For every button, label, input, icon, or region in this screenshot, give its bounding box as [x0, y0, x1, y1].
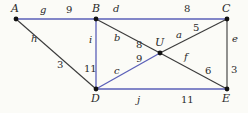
- node-label-D: D: [90, 92, 100, 105]
- node-label-B: B: [91, 2, 100, 15]
- edge-weight-label-a: 5: [193, 22, 199, 33]
- edge-weight-label-d: 8: [184, 3, 190, 14]
- edge-b: [96, 19, 160, 53]
- edge-name-label-c: c: [114, 65, 120, 76]
- edge-weight-label-g: 9: [66, 4, 72, 15]
- edge-weight-label-c: 9: [136, 53, 142, 64]
- node-E: [225, 87, 230, 92]
- edge-name-label-e: e: [232, 33, 238, 44]
- edge-weight-label-i: 11: [84, 63, 97, 74]
- edge-weight-label-f: 6: [205, 65, 211, 76]
- edge-name-label-a: a: [176, 29, 182, 40]
- node-label-C: C: [222, 2, 231, 15]
- node-label-U: U: [155, 36, 165, 49]
- edge-c: [96, 53, 160, 89]
- edge-name-label-f: f: [183, 51, 190, 62]
- node-label-E: E: [221, 92, 230, 105]
- edge-weight-label-j: 11: [181, 94, 194, 105]
- edge-name-label-g: g: [40, 4, 46, 15]
- edge-name-label-d: d: [113, 3, 119, 14]
- node-A: [14, 17, 19, 22]
- edge-name-label-i: i: [89, 34, 92, 45]
- node-label-A: A: [10, 2, 19, 15]
- edge-name-label-h: h: [31, 33, 37, 44]
- edge-weight-label-e: 3: [231, 64, 237, 75]
- edge-f: [160, 53, 227, 89]
- node-B: [94, 17, 99, 22]
- edge-name-label-j: j: [135, 94, 140, 105]
- node-U: [158, 51, 163, 56]
- labels-layer: g9d8i11h3b8a5c9f6e3j11: [31, 3, 238, 105]
- edge-weight-label-b: 8: [136, 39, 142, 50]
- graph-diagram: g9d8i11h3b8a5c9f6e3j11 ABCUDE: [0, 0, 248, 113]
- node-D: [94, 87, 99, 92]
- edge-weight-label-h: 3: [57, 59, 63, 70]
- node-C: [225, 17, 230, 22]
- edge-name-label-b: b: [114, 32, 120, 43]
- edge-h: [16, 19, 96, 89]
